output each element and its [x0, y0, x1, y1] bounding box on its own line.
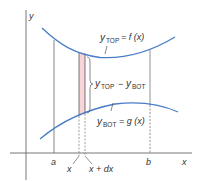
svg-text:y: y [125, 78, 132, 89]
svg-text:= g (x): = g (x) [119, 116, 145, 126]
svg-text:TOP: TOP [106, 37, 119, 44]
strip-fill [79, 52, 85, 116]
svg-text:y: y [99, 32, 106, 43]
bottom-curve-label: y BOT = g (x) [96, 116, 145, 128]
strip-height-label: y TOP − y BOT [94, 78, 145, 90]
svg-text:= f (x): = f (x) [121, 32, 144, 42]
x-dx-leader-line [85, 156, 92, 164]
top-curve-label: y TOP = f (x) [99, 32, 144, 44]
top-label-pointer [105, 46, 107, 54]
svg-text:BOT: BOT [103, 121, 116, 128]
height-brace [87, 57, 93, 113]
bound-a-label: a [51, 157, 56, 167]
svg-text:y: y [94, 78, 101, 89]
svg-text:TOP: TOP [101, 83, 114, 90]
svg-text:BOT: BOT [132, 83, 145, 90]
area-between-curves-diagram: y x a b x x + dx y TOP = f (x) y TOP − y… [0, 0, 200, 181]
x-axis-label: x [181, 157, 187, 167]
bound-b-label: b [146, 157, 151, 167]
y-axis-label: y [28, 11, 34, 21]
svg-text:−: − [118, 79, 123, 89]
strip-x-dx-label: x + dx [88, 164, 114, 174]
strip-x-label: x [66, 164, 72, 174]
svg-text:y: y [96, 116, 103, 127]
x-leader-line [73, 156, 79, 164]
